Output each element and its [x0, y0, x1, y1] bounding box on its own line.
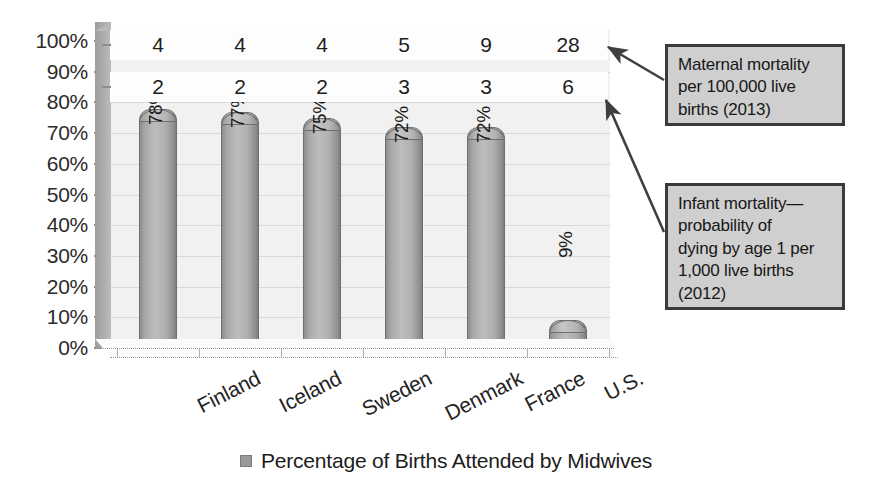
x-axis-label: U.S.	[600, 366, 647, 406]
y-axis-tick-label: 0%	[58, 337, 88, 358]
x-axis-label: France	[521, 366, 589, 417]
x-axis-line	[96, 348, 614, 349]
data-table-cell: 5	[374, 30, 434, 60]
data-table-cell: 4	[292, 30, 352, 60]
bar	[303, 118, 341, 348]
x-axis-line-front	[110, 357, 618, 358]
legend-swatch-icon	[240, 455, 252, 467]
bar-value-label: 9%	[555, 232, 577, 258]
y-axis-tick-label: 50%	[47, 184, 88, 205]
data-table-cell: 4	[128, 30, 188, 60]
gridline	[110, 225, 610, 226]
gridline	[110, 164, 610, 165]
x-axis-label: Finland	[193, 366, 264, 418]
y-axis-tick-label: 60%	[47, 153, 88, 174]
x-axis-label: Sweden	[358, 366, 435, 421]
legend: Percentage of Births Attended by Midwive…	[0, 449, 892, 473]
bar-value-label: 75%	[309, 97, 331, 134]
legend-label: Percentage of Births Attended by Midwive…	[261, 449, 652, 473]
callout-maternal-mortality: Maternal mortalityper 100,000 livebirths…	[665, 44, 845, 126]
y-axis-tick-label: 100%	[35, 30, 88, 51]
callout-line: (2012)	[678, 283, 833, 305]
data-table-cell: 4	[210, 30, 270, 60]
y-axis-tick-label: 70%	[47, 122, 88, 143]
y-axis-tick-label: 90%	[47, 61, 88, 82]
x-axis-tick-mark	[609, 349, 610, 357]
callout-line: probability of	[678, 215, 833, 237]
data-table-cell: 2	[210, 72, 270, 102]
arrow-infant	[606, 100, 664, 232]
y-axis-tick-label: 80%	[47, 91, 88, 112]
x-axis-label: Denmark	[441, 366, 527, 425]
gridline	[110, 102, 610, 103]
data-table-cell: 3	[374, 72, 434, 102]
y-axis-tick-label: 30%	[47, 245, 88, 266]
gridline	[110, 133, 610, 134]
y-axis-tick-label: 10%	[47, 306, 88, 327]
x-axis-tick-mark	[363, 349, 364, 357]
bar-value-label: 72%	[473, 106, 495, 143]
y-axis-tick-label: 20%	[47, 276, 88, 297]
callout-line: births (2013)	[678, 99, 833, 121]
x-axis-tick-mark	[281, 349, 282, 357]
bar-value-label: 72%	[391, 106, 413, 143]
gridline	[110, 287, 610, 288]
y-axis: 100%90%80%70%60%50%40%30%20%10%0%	[18, 0, 102, 482]
bar	[467, 127, 505, 348]
data-table-row-tick	[102, 86, 111, 88]
x-axis-tick-mark	[445, 349, 446, 357]
data-table-cell: 3	[456, 72, 516, 102]
chart-left-wall	[95, 22, 111, 348]
callout-infant-mortality: Infant mortality—probability ofdying by …	[665, 183, 845, 310]
chart-canvas: 100%90%80%70%60%50%40%30%20%10%0% 78%77%…	[0, 0, 892, 482]
gridline	[110, 256, 610, 257]
x-axis-tick-mark	[527, 349, 528, 357]
callout-line: per 100,000 live	[678, 76, 833, 98]
callout-line: dying by age 1 per	[678, 238, 833, 260]
data-table-cell: 9	[456, 30, 516, 60]
bar	[139, 109, 177, 348]
gridline	[110, 317, 610, 318]
callout-line: Infant mortality—	[678, 193, 833, 215]
bar	[385, 127, 423, 348]
data-table-cell: 2	[128, 72, 188, 102]
data-table-cell: 6	[538, 72, 598, 102]
x-axis-label: Iceland	[275, 366, 345, 417]
data-table-cell: 28	[538, 30, 598, 60]
data-table-cell: 2	[292, 72, 352, 102]
data-table-row-tick	[102, 44, 111, 46]
bar	[221, 112, 259, 348]
callout-line: Maternal mortality	[678, 54, 833, 76]
arrow-maternal	[608, 47, 664, 80]
x-axis-tick-mark	[199, 349, 200, 357]
callout-line: 1,000 live births	[678, 260, 833, 282]
x-axis-tick-mark	[117, 349, 118, 357]
y-axis-tick-label: 40%	[47, 214, 88, 235]
gridline	[110, 195, 610, 196]
